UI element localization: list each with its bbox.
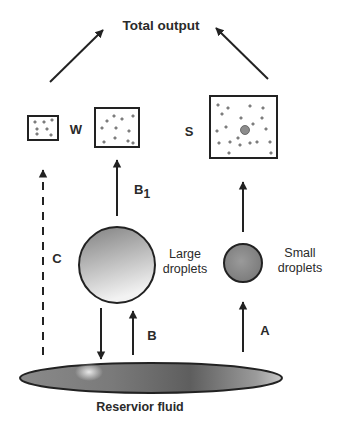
reservoir-fluid-label: Reservior fluid xyxy=(96,400,184,414)
small-droplet xyxy=(224,244,262,282)
reservoir-fluid xyxy=(20,363,282,393)
b-label: B xyxy=(147,328,156,343)
small-droplets-label-line1: Small xyxy=(284,246,315,260)
large-droplets-label-line2: droplets xyxy=(163,262,207,276)
a-label: A xyxy=(260,323,270,338)
b1-main: B xyxy=(134,182,143,197)
total-output-label: Total output xyxy=(123,18,200,33)
large-droplet xyxy=(79,227,155,303)
c-label: C xyxy=(52,251,62,266)
solids-box xyxy=(210,96,277,158)
flow-diagram: Total output W S xyxy=(0,0,343,425)
arrow-left-to-total xyxy=(50,30,103,82)
large-droplets-label-line1: Large xyxy=(169,247,201,261)
water-box-small xyxy=(28,116,58,140)
water-box-large xyxy=(95,108,139,147)
s-label: S xyxy=(185,124,194,139)
w-label: W xyxy=(70,122,83,137)
b1-subscript: 1 xyxy=(143,187,150,201)
small-droplets-label-line2: droplets xyxy=(278,261,322,275)
b1-label: B1 xyxy=(134,182,150,201)
arrow-right-to-total xyxy=(216,28,268,79)
